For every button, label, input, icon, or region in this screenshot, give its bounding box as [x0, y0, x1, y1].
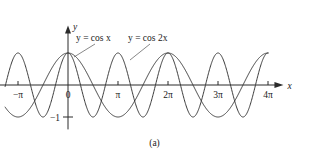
- leader-line-cos-x: [74, 44, 95, 57]
- x-axis-arrow-icon: [274, 82, 283, 88]
- y-axis-tick-label: −1: [50, 113, 60, 123]
- x-axis-label: x: [286, 81, 292, 91]
- figure-container: −π0π2π3π4π−1xyy = cos xy = cos 2x (a): [0, 0, 309, 159]
- x-axis-tick-label: −π: [13, 90, 23, 100]
- leader-line-cos-2x: [130, 44, 150, 60]
- x-axis-tick-label: 0: [66, 90, 71, 100]
- curve-label-cos-2x: y = cos 2x: [128, 33, 168, 43]
- plot-labels-group: −π0π2π3π4π−1xyy = cos xy = cos 2x: [13, 22, 293, 123]
- figure-caption: (a): [0, 137, 309, 149]
- y-axis-label: y: [72, 22, 78, 32]
- x-axis-tick-label: 3π: [213, 90, 223, 100]
- leader-lines-group: [74, 44, 150, 60]
- y-axis-arrow-icon: [65, 26, 71, 34]
- curve-label-cos-x: y = cos x: [76, 33, 111, 43]
- x-axis-tick-label: 2π: [163, 90, 173, 100]
- x-axis-tick-label: π: [116, 90, 121, 100]
- x-axis-tick-label: 4π: [263, 90, 273, 100]
- cosine-curves-plot: −π0π2π3π4π−1xyy = cos xy = cos 2x: [0, 0, 309, 159]
